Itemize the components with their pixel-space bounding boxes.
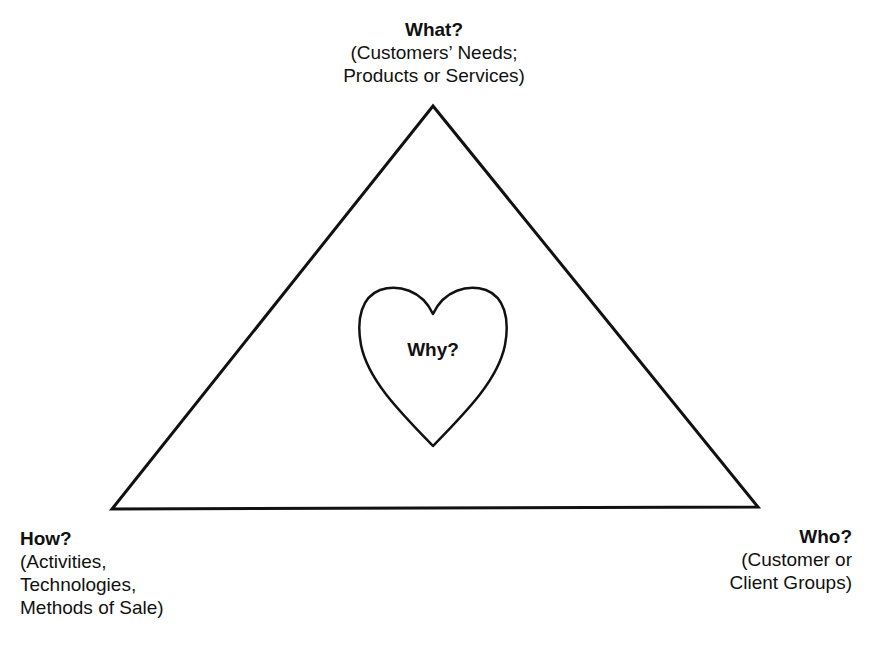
who-label: Who? (Customer or Client Groups): [652, 525, 852, 594]
what-description-line-2: Products or Services): [284, 64, 584, 87]
triangle-shape: [112, 106, 758, 509]
what-label: What? (Customers’ Needs; Products or Ser…: [284, 18, 584, 87]
what-description-line-1: (Customers’ Needs;: [284, 41, 584, 64]
what-heading: What?: [284, 18, 584, 41]
how-description-line-2: Technologies,: [20, 573, 260, 596]
why-label: Why?: [383, 338, 483, 361]
heart-shape: [359, 288, 506, 446]
how-description-line-3: Methods of Sale): [20, 596, 260, 619]
how-label: How? (Activities, Technologies, Methods …: [20, 527, 260, 619]
how-description-line-1: (Activities,: [20, 550, 260, 573]
who-description-line-2: Client Groups): [652, 571, 852, 594]
how-heading: How?: [20, 527, 260, 550]
who-heading: Who?: [652, 525, 852, 548]
who-description-line-1: (Customer or: [652, 548, 852, 571]
